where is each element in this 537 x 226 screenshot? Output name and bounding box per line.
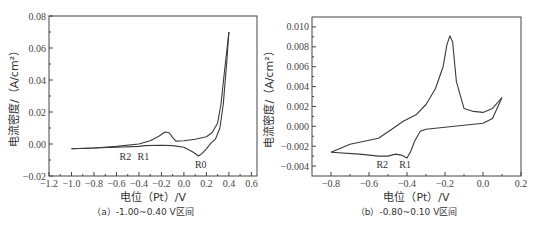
peak-label-r2: R2 [120,151,132,162]
y-tick-label: −0.004 [281,161,309,172]
x-tick-label: 0.0 [178,178,191,189]
x-tick-label: −0.8 [85,178,103,189]
x-tick-label: 0.2 [515,178,528,189]
x-axis-label: 电位（Pt）/V [120,190,187,204]
y-tick-label: 0.000 [287,121,310,132]
chart-a: −1.2−1.0−0.8−0.6−0.4−0.20.00.20.40.6−0.0… [7,11,258,218]
x-tick-label: −0.6 [360,178,378,189]
x-tick-label: −0.2 [436,178,454,189]
x-tick-label: −0.2 [152,178,170,189]
x-tick-label: 0.0 [477,178,490,189]
y-tick-label: 0.02 [29,107,47,118]
plot-frame [49,16,257,176]
peak-label-r1: R1 [399,159,411,170]
cv-curve-reverse-scan [331,98,502,159]
y-tick-label: 0.06 [29,43,47,54]
x-tick-label: −0.4 [130,178,148,189]
figure-caption: （a）-1.00~0.40 V区间 [92,206,193,217]
x-tick-label: −0.4 [398,178,416,189]
x-tick-label: −0.6 [107,178,125,189]
peak-label-r2: R2 [376,159,388,170]
y-axis-label: 电流密度/（A/cm²） [7,45,21,147]
y-tick-label: −0.02 [23,171,46,182]
y-tick-label: 0.00 [29,139,47,150]
figure-caption: （b）-0.80~0.10 V区间 [356,206,458,217]
peak-label-r0: R0 [195,159,207,170]
x-axis-label: 电位（Pt）/V [383,190,450,204]
y-tick-label: 0.008 [287,41,310,52]
y-axis-label: 电流密度/（A/cm²） [262,45,276,147]
figure: −1.2−1.0−0.8−0.6−0.4−0.20.00.20.40.6−0.0… [0,0,537,226]
y-tick-label: 0.010 [287,21,310,32]
y-tick-label: 0.04 [29,75,47,86]
y-tick-label: −0.002 [281,141,309,152]
y-tick-label: 0.006 [287,61,310,72]
x-tick-label: 0.4 [223,178,236,189]
x-tick-label: 0.6 [245,178,258,189]
chart-b: −0.8−0.6−0.4−0.20.00.2−0.004−0.0020.0000… [262,17,527,217]
x-tick-label: −0.8 [322,178,340,189]
peak-label-r1: R1 [138,151,150,162]
cv-curve-forward-scan [331,36,502,152]
y-tick-label: 0.002 [287,101,310,112]
y-tick-label: 0.004 [287,81,310,92]
cv-curve-forward-scan [72,32,229,149]
x-tick-label: 0.2 [200,178,213,189]
plot-frame [312,17,521,176]
y-tick-label: 0.08 [29,11,47,22]
x-tick-label: −1.0 [62,178,80,189]
